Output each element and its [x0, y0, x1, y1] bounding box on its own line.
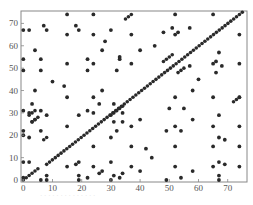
data-point — [77, 178, 81, 182]
diagonal-dot — [30, 171, 34, 175]
data-point — [138, 169, 142, 173]
data-point — [103, 39, 107, 43]
diagonal-dot — [180, 57, 184, 61]
diagonal-dot — [118, 107, 122, 111]
y-tick-label: 20 — [9, 130, 19, 140]
diagonal-dot — [88, 129, 92, 133]
diagonal-dot — [74, 140, 78, 144]
diagonal-dot — [168, 55, 172, 59]
diagonal-dot — [182, 66, 186, 70]
diagonal-dot — [79, 136, 83, 140]
diagonal-dot — [45, 163, 49, 167]
data-point — [223, 162, 227, 166]
diagonal-dot — [56, 154, 60, 158]
data-point — [65, 124, 69, 128]
data-point — [21, 28, 25, 32]
diagonal-dot — [140, 89, 144, 93]
data-point — [33, 89, 37, 93]
data-point — [188, 26, 192, 30]
data-point — [51, 80, 55, 84]
data-point — [121, 111, 125, 115]
diagonal-dot — [146, 84, 150, 88]
data-point — [167, 107, 171, 111]
data-point — [91, 95, 95, 99]
data-point — [173, 13, 177, 17]
diagonal-dot — [171, 64, 175, 68]
diagonal-dot — [124, 17, 128, 21]
data-point — [217, 51, 221, 55]
data-point — [74, 24, 78, 28]
data-point — [173, 124, 177, 128]
data-point — [65, 13, 69, 17]
data-point — [115, 68, 119, 72]
diagonal-dot — [112, 111, 116, 115]
diagonal-dot — [134, 93, 138, 97]
diagonal-dot — [177, 60, 181, 64]
data-point — [237, 165, 241, 169]
x-tick-label: 0 — [21, 183, 26, 193]
y-tick-label: 30 — [9, 108, 19, 118]
diagonal-dot — [186, 53, 190, 57]
data-point — [164, 178, 168, 182]
data-point — [173, 95, 177, 99]
data-point — [27, 136, 31, 140]
diagonal-dot — [100, 120, 104, 124]
diagonal-dot — [45, 136, 49, 140]
diagonal-dot — [91, 127, 95, 131]
diagonal-dot — [33, 169, 37, 173]
diagonal-dot — [176, 71, 180, 75]
diagonal-dot — [183, 55, 187, 59]
data-point — [211, 13, 215, 17]
data-point — [129, 145, 133, 149]
diagonal-dot — [220, 26, 224, 30]
y-tick-label: 40 — [9, 86, 19, 96]
data-point — [65, 33, 69, 37]
diagonal-dot — [162, 60, 166, 64]
diagonal-dot — [36, 167, 40, 171]
dot-plot-chart: 010203040506070 010203040506070 — [0, 0, 253, 205]
data-point — [77, 28, 81, 32]
data-point — [74, 162, 78, 166]
y-tick-label: 0 — [14, 175, 19, 185]
diagonal-dot — [197, 44, 201, 48]
data-point — [62, 84, 66, 88]
diagonal-dot — [174, 62, 178, 66]
diagonal-dot — [33, 109, 37, 113]
data-point — [162, 30, 166, 34]
data-point — [97, 171, 101, 175]
diagonal-dot — [163, 71, 167, 75]
data-point — [153, 44, 157, 48]
data-point — [211, 165, 215, 169]
diagonal-dot — [148, 82, 152, 86]
diagonal-dot — [85, 131, 89, 135]
diagonal-dot — [194, 46, 198, 50]
diagonal-dot — [27, 174, 31, 178]
diagonal-dot — [53, 156, 57, 160]
data-point — [191, 118, 195, 122]
data-point — [27, 28, 31, 32]
diagonal-dot — [130, 13, 134, 17]
data-point — [91, 13, 95, 17]
diagonal-dot — [125, 100, 129, 104]
diagonal-dot — [212, 33, 216, 37]
data-point — [39, 178, 43, 182]
data-point — [112, 120, 116, 124]
diagonal-dot — [215, 31, 219, 35]
diagonal-dot — [137, 91, 141, 95]
diagonal-dot — [48, 160, 52, 164]
diagonal-dot — [105, 116, 109, 120]
data-point — [39, 57, 43, 61]
data-point — [173, 145, 177, 149]
data-point — [121, 120, 125, 124]
data-point — [97, 102, 101, 106]
data-point — [45, 28, 49, 32]
data-point — [112, 102, 116, 106]
data-point — [112, 174, 116, 178]
data-point — [21, 129, 25, 133]
data-point — [100, 48, 104, 52]
diagonal-dot — [235, 98, 239, 102]
diagonal-dot — [192, 48, 196, 52]
diagonal-dot — [241, 10, 245, 14]
diagonal-dot — [128, 98, 132, 102]
data-point — [109, 28, 113, 32]
